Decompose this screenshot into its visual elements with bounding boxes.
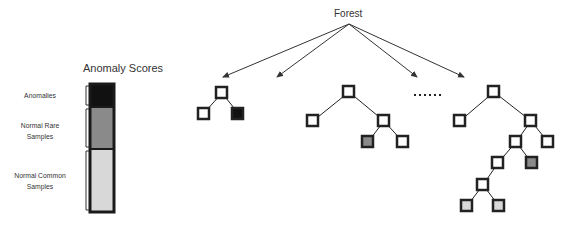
tree-3 [454, 86, 553, 211]
forest-arrows [223, 24, 464, 77]
tree-2 [307, 86, 408, 147]
ellipsis [414, 94, 441, 96]
diagram-canvas [0, 0, 569, 230]
anomaly-score-bar [90, 84, 114, 212]
tree-1 [198, 87, 243, 119]
